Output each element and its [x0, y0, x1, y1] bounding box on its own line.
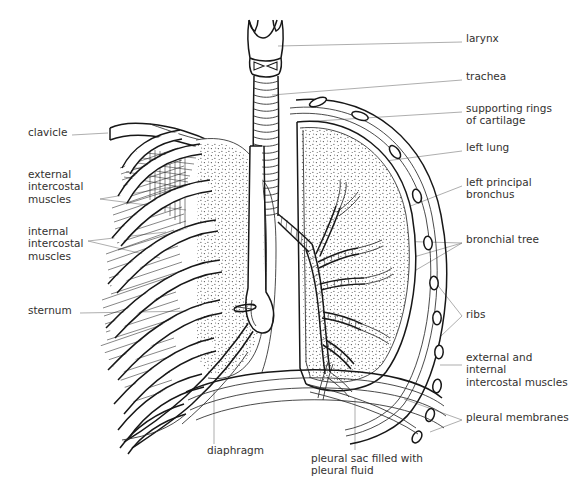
- larynx-structure: [248, 20, 283, 77]
- pleural-sac: [306, 384, 418, 434]
- label-trachea: trachea: [466, 70, 506, 82]
- label-external-intercostal-muscles: external intercostal muscles: [28, 168, 83, 205]
- leader-clavicle: [72, 133, 108, 135]
- label-external-and-internal-intercostal-muscles: external and internal intercostal muscle…: [466, 351, 568, 388]
- label-diaphragm: diaphragm: [207, 444, 264, 456]
- leader-trachea: [272, 80, 462, 95]
- label-pleural-sac: pleural sac filled with pleural fluid: [311, 452, 423, 477]
- label-bronchial-tree: bronchial tree: [466, 233, 539, 245]
- label-larynx: larynx: [466, 32, 499, 44]
- label-internal-intercostal-muscles: internal intercostal muscles: [28, 225, 83, 262]
- label-sternum: sternum: [28, 304, 72, 316]
- anatomy-diagram: larynx trachea supporting rings of carti…: [0, 0, 582, 504]
- label-left-principal-bronchus: left principal bronchus: [466, 176, 532, 201]
- label-supporting-rings-of-cartilage: supporting rings of cartilage: [466, 102, 552, 127]
- label-left-lung: left lung: [466, 141, 509, 153]
- label-ribs: ribs: [466, 308, 485, 320]
- leader-cartilage-rings: [300, 112, 462, 122]
- leader-ribs-1: [436, 283, 462, 316]
- label-clavicle: clavicle: [28, 126, 67, 138]
- leader-larynx: [278, 42, 462, 46]
- label-pleural-membranes: pleural membranes: [466, 411, 569, 423]
